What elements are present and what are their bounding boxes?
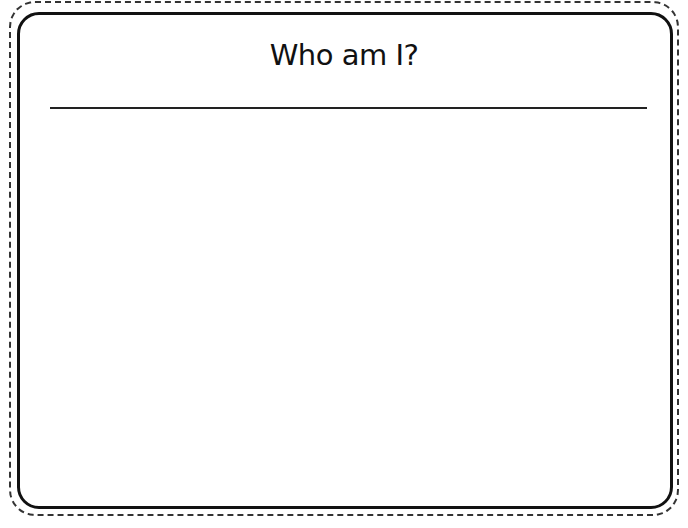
worksheet-frame [17,12,673,509]
page-title: Who am I? [0,38,688,72]
title-underline-divider [50,107,647,109]
